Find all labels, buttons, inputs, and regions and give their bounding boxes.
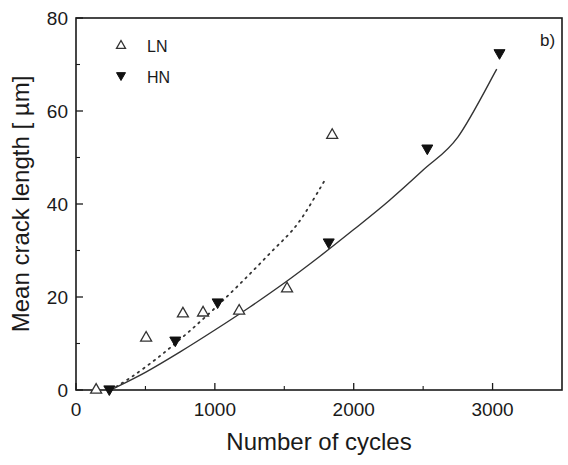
y-axis-title: Mean crack length [ µm] <box>7 76 34 333</box>
hn-fit-solid-curve <box>111 69 497 390</box>
x-tick-label: 1000 <box>194 399 236 420</box>
hn-triangle-down-icon <box>212 299 223 309</box>
ln-triangle-up-icon <box>91 384 102 394</box>
panel-label: b) <box>540 31 555 50</box>
ln-fit-dotted-curve <box>111 178 326 390</box>
y-tick-label: 40 <box>47 194 68 215</box>
ln-triangle-up-icon <box>234 305 245 315</box>
fit-curves <box>111 69 497 390</box>
legend: LNHN <box>117 38 171 86</box>
y-tick-label: 20 <box>47 287 68 308</box>
y-tick-label: 60 <box>47 101 68 122</box>
x-axis-title: Number of cycles <box>226 428 411 455</box>
ln-triangle-up-icon <box>198 306 209 316</box>
ln-triangle-up-icon <box>327 129 338 139</box>
legend-label-ln: LN <box>147 38 167 55</box>
ln-triangle-up-icon <box>141 331 152 341</box>
hn-triangle-down-icon <box>422 145 433 155</box>
x-tick-label: 3000 <box>471 399 513 420</box>
y-tick-label: 0 <box>57 380 68 401</box>
y-tick-label: 80 <box>47 8 68 29</box>
legend-ln-triangle-up-icon <box>117 41 126 49</box>
legend-hn-triangle-down-icon <box>117 73 126 81</box>
axis-ticks: 0100020003000020406080 <box>47 8 514 420</box>
hn-triangle-down-icon <box>494 50 505 60</box>
hn-triangle-down-icon <box>170 337 181 347</box>
data-points <box>91 50 505 396</box>
x-tick-label: 2000 <box>333 399 375 420</box>
crack-length-chart: 0100020003000020406080 LNHN b) Number of… <box>0 0 568 465</box>
x-tick-label: 0 <box>71 399 82 420</box>
legend-label-hn: HN <box>147 69 170 86</box>
ln-triangle-up-icon <box>177 307 188 317</box>
